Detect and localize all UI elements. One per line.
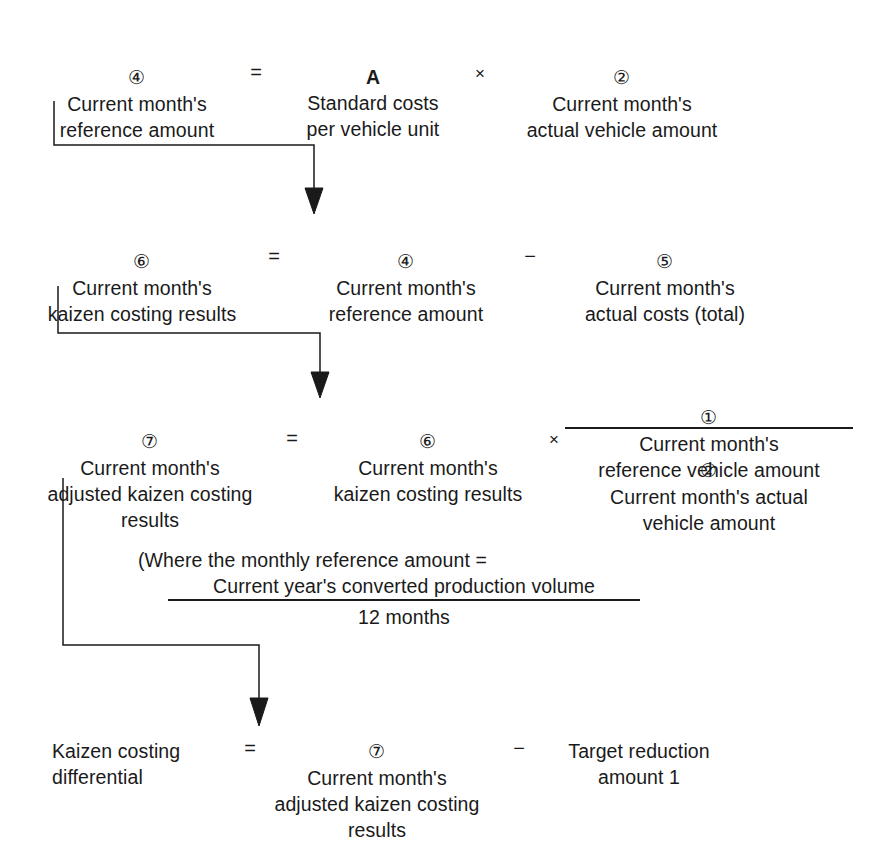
row1-term1: A Standard costs per vehicle unit	[278, 38, 468, 142]
row3-fraction-bar	[565, 427, 853, 429]
row1-operator-equals: =	[244, 62, 268, 82]
row1-term1-text: Standard costs per vehicle unit	[307, 92, 440, 140]
row4-term2: Target reduction amount 1	[534, 712, 744, 790]
row3-term1-text: Current month's kaizen costing results	[334, 457, 523, 505]
row4-lhs: Kaizen costing differential	[52, 712, 242, 790]
row4-term2-text: Target reduction amount 1	[568, 740, 709, 788]
note-numerator: Current year's converted production volu…	[168, 573, 640, 599]
row2-term2: ⑤ Current month's actual costs (total)	[545, 222, 785, 327]
row3-lhs: ⑦ Current month's adjusted kaizen costin…	[20, 402, 280, 533]
row4-term1-marker: ⑦	[368, 741, 385, 762]
row2-term1-marker: ④	[397, 251, 414, 272]
row3-term1: ⑥ Current month's kaizen costing results	[308, 402, 548, 507]
row1-lhs-marker: ④	[128, 67, 145, 88]
note-line1: (Where the monthly reference amount =	[138, 547, 608, 573]
note-fraction-bar	[168, 599, 640, 601]
row3-fraction-denominator-marker: ②	[700, 460, 717, 481]
row2-operator-equals: =	[262, 246, 286, 266]
row4-operator-minus: −	[508, 738, 530, 758]
row2-lhs-text: Current month's kaizen costing results	[48, 277, 237, 325]
row1-term2: ② Current month's actual vehicle amount	[497, 38, 747, 143]
row3-lhs-marker: ⑦	[141, 431, 158, 452]
note-denominator: 12 months	[168, 604, 640, 630]
row2-operator-minus: −	[519, 246, 541, 266]
row3-term1-marker: ⑥	[419, 431, 436, 452]
row4-lhs-text: Kaizen costing differential	[52, 740, 180, 788]
row3-lhs-text: Current month's adjusted kaizen costing …	[47, 457, 252, 531]
row2-term1: ④ Current month's reference amount	[296, 222, 516, 327]
row1-term2-marker: ②	[613, 67, 630, 88]
row3-fraction-denominator: ② Current month's actual vehicle amount	[565, 431, 853, 536]
row2-lhs: ⑥ Current month's kaizen costing results	[22, 222, 262, 327]
row1-term1-marker: A	[366, 66, 380, 88]
row1-lhs: ④ Current month's reference amount	[22, 38, 252, 143]
row1-operator-times: ×	[469, 64, 491, 84]
row4-term1-text: Current month's adjusted kaizen costing …	[274, 767, 479, 841]
row3-operator-times: ×	[543, 430, 565, 450]
row3-fraction-numerator-marker: ①	[700, 407, 717, 428]
row2-term2-marker: ⑤	[656, 251, 673, 272]
row1-lhs-text: Current month's reference amount	[60, 93, 214, 141]
row3-operator-equals: =	[280, 428, 304, 448]
row2-term1-text: Current month's reference amount	[329, 277, 483, 325]
row2-term2-text: Current month's actual costs (total)	[585, 277, 745, 325]
row2-lhs-marker: ⑥	[133, 251, 150, 272]
diagram-canvas: ④ Current month's reference amount = A S…	[0, 0, 890, 843]
row1-term2-text: Current month's actual vehicle amount	[527, 93, 718, 141]
row4-term1: ⑦ Current month's adjusted kaizen costin…	[248, 712, 506, 843]
row3-fraction-denominator-text: Current month's actual vehicle amount	[610, 486, 808, 534]
